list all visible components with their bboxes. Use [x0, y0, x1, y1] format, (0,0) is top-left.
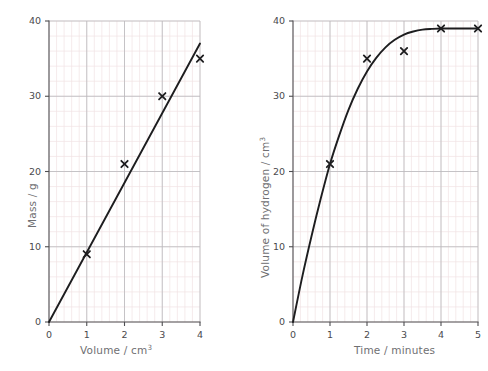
x-tick-label: 2 — [347, 329, 387, 340]
x-tick-label: 0 — [273, 329, 313, 340]
x-tick-label: 3 — [142, 329, 182, 340]
x-tick-label: 0 — [29, 329, 69, 340]
x-tick-label: 5 — [458, 329, 488, 340]
y-tick-label: 30 — [245, 90, 285, 101]
y-tick-label: 40 — [245, 15, 285, 26]
y-axis-title-mass: Mass / g — [26, 183, 38, 228]
x-tick-label: 4 — [180, 329, 220, 340]
x-tick-label: 2 — [105, 329, 145, 340]
chart-mass-vs-volume: Mass / g Volume / cm3 01234010203040 — [0, 0, 244, 371]
x-tick-label: 1 — [67, 329, 107, 340]
y-tick-label: 0 — [245, 316, 285, 327]
x-axis-title-time: Time / minutes — [354, 344, 435, 356]
y-tick-label: 30 — [1, 90, 41, 101]
y-axis-title-volume-of-hydrogen: Volume of hydrogen / cm3 — [259, 137, 271, 278]
y-tick-label: 10 — [245, 241, 285, 252]
y-tick-label: 20 — [245, 166, 285, 177]
x-tick-label: 1 — [310, 329, 350, 340]
chart-hydrogen-volume-vs-time: Volume of hydrogen / cm3 Time / minutes … — [244, 0, 488, 371]
y-tick-label: 0 — [1, 316, 41, 327]
x-tick-label: 3 — [384, 329, 424, 340]
y-tick-label: 20 — [1, 166, 41, 177]
y-tick-label: 40 — [1, 15, 41, 26]
figure-root: Mass / g Volume / cm3 01234010203040 Vol… — [0, 0, 488, 371]
y-tick-label: 10 — [1, 241, 41, 252]
x-tick-label: 4 — [421, 329, 461, 340]
x-axis-title-volume: Volume / cm3 — [80, 344, 152, 356]
